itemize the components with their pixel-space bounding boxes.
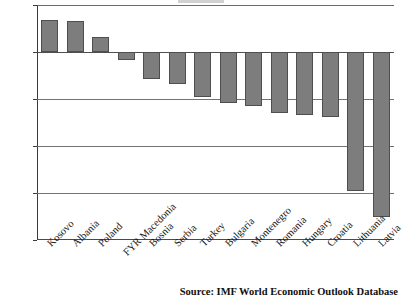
bar-turkey xyxy=(194,52,211,97)
source-note: Source: IMF World Economic Outlook Datab… xyxy=(180,286,398,298)
bar-lithuania xyxy=(347,52,364,191)
bar-serbia xyxy=(169,52,186,84)
plot-area: 5.00.0-5.0-10.0-15.0-20.0 xyxy=(37,5,394,240)
bar-latvia xyxy=(373,52,390,217)
bar-albania xyxy=(67,21,84,52)
bar-croatia xyxy=(322,52,339,117)
bar-romania xyxy=(271,52,288,113)
gridline--10.0 xyxy=(37,146,394,147)
y-tick-mark xyxy=(33,146,37,147)
gridline--5.0 xyxy=(37,99,394,100)
y-tick-mark xyxy=(33,52,37,53)
y-tick-mark xyxy=(33,193,37,194)
bar-bosnia xyxy=(143,52,160,79)
bar-fyr-macedonia xyxy=(118,52,135,60)
gridline-0.0 xyxy=(37,52,394,53)
y-tick-mark xyxy=(33,99,37,100)
y-tick-mark xyxy=(33,5,37,6)
bar-bulgaria xyxy=(220,52,237,103)
bar-hungary xyxy=(296,52,313,115)
title-artifact xyxy=(178,0,224,3)
bar-poland xyxy=(92,37,109,52)
bar-montenegro xyxy=(245,52,262,106)
bar-kosovo xyxy=(41,20,58,52)
plot-frame xyxy=(37,5,394,240)
gridline--15.0 xyxy=(37,193,394,194)
